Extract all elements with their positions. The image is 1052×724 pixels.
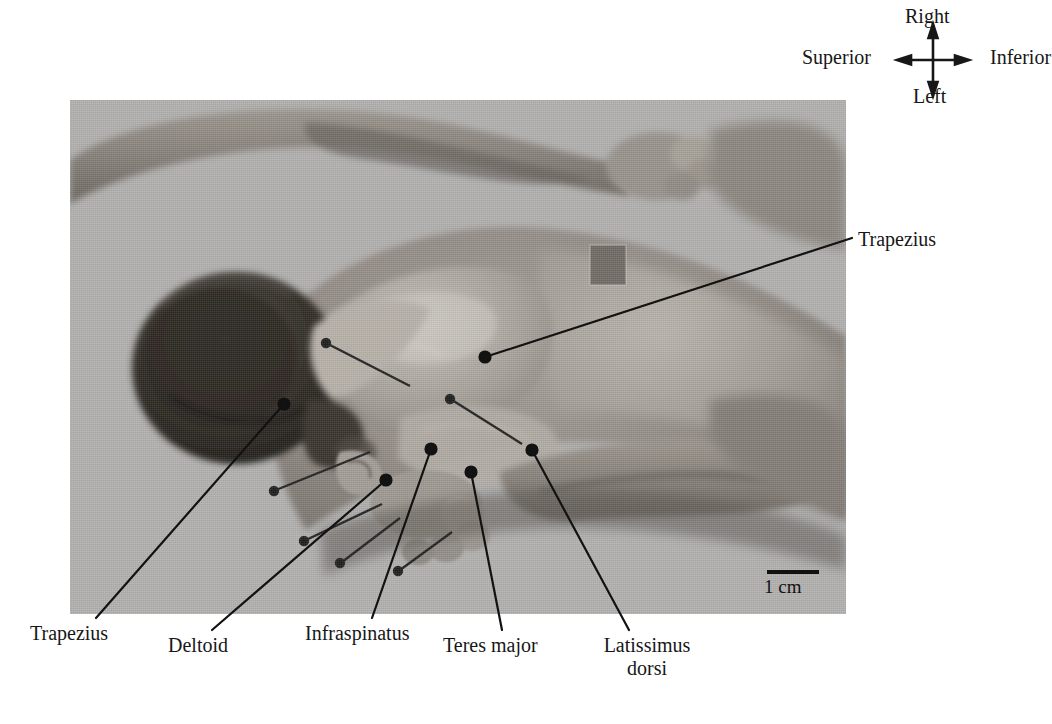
scale-bar-label: 1 cm [764,576,850,598]
scale-bar: 1 cm [764,570,850,598]
label-latissimus-dorsi: Latissimus dorsi [588,634,706,680]
label-deltoid: Deltoid [168,634,228,657]
dissection-photograph [70,100,846,614]
label-latissimus-line1: Latissimus [604,634,691,656]
label-infraspinatus: Infraspinatus [305,622,409,645]
label-teres-major: Teres major [443,634,538,657]
label-trapezius-right: Trapezius [858,228,936,251]
specimen-image [70,100,846,614]
scale-bar-line [767,570,819,574]
compass-cross-icon [800,2,1052,112]
skin-marker-square [590,245,626,285]
orientation-compass: Right Left Superior Inferior [800,2,1052,112]
label-trapezius-left: Trapezius [30,622,108,645]
label-latissimus-line2: dorsi [627,657,667,679]
